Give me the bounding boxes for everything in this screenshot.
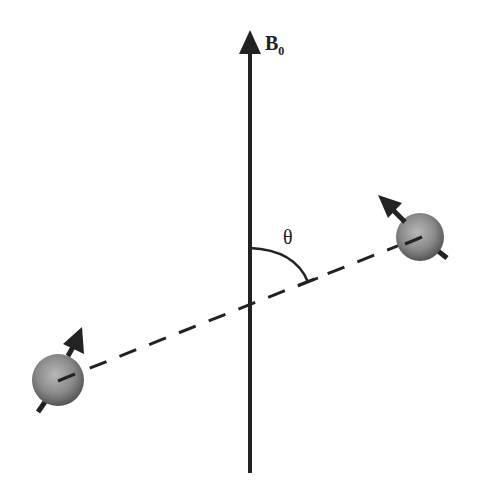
arrow-up-icon [239, 30, 261, 54]
internuclear-vector [60, 237, 420, 380]
theta-angle-arc [250, 248, 318, 286]
field-label-text: B [265, 32, 278, 54]
theta-label: θ [283, 226, 293, 249]
b0-field-label: B0 [265, 32, 284, 59]
left-spin-sphere [32, 327, 84, 412]
b0-field-axis [239, 30, 261, 473]
dipolar-coupling-diagram [0, 0, 485, 500]
field-label-subscript: 0 [278, 44, 284, 58]
